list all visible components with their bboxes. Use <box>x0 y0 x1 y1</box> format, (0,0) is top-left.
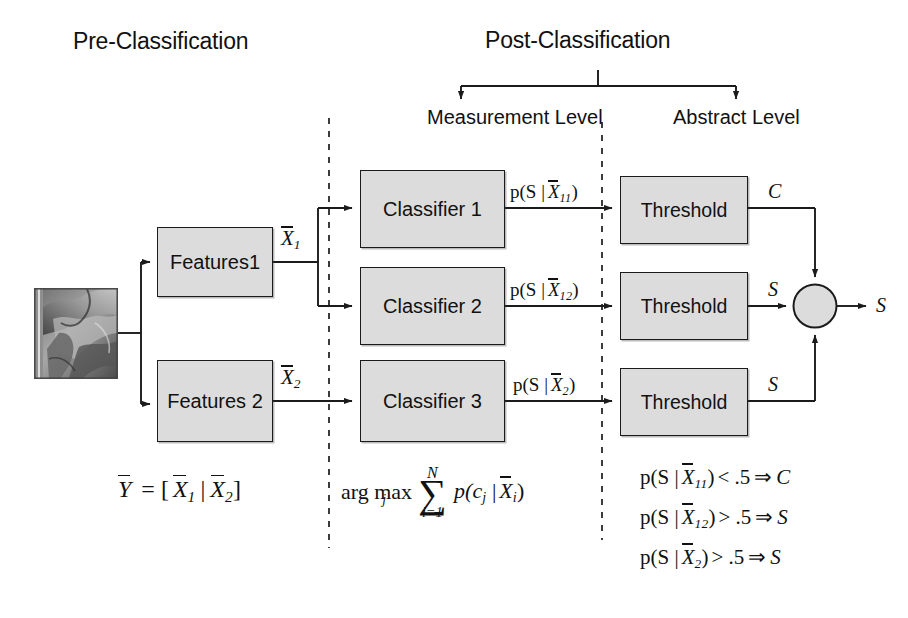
heading-pre-classification: Pre-Classification <box>73 28 248 55</box>
edge-label-decision-3: S <box>768 373 778 396</box>
formula-feature-concatenation: Y = [X1|X2] <box>118 477 241 504</box>
decision-rule-3: p(S |X2)> .5⇒S <box>640 545 781 572</box>
node-features-2[interactable]: Features 2 <box>157 360 273 442</box>
edge-label-posterior-2: p(S |X12) <box>510 280 579 302</box>
edge-label-decision-1: C <box>768 180 781 203</box>
edge-label-feature-vector-2: X2 <box>281 367 301 390</box>
node-threshold-1[interactable]: Threshold <box>620 176 748 244</box>
node-features-1-label: Features1 <box>170 251 260 274</box>
diagram-canvas: Pre-Classification Post-Classification M… <box>0 0 908 618</box>
edge-label-output: S <box>876 294 886 317</box>
node-features-2-label: Features 2 <box>167 390 263 413</box>
node-classifier-2-label: Classifier 2 <box>383 295 482 318</box>
node-classifier-1-label: Classifier 1 <box>383 198 482 221</box>
node-threshold-2[interactable]: Threshold <box>620 272 748 340</box>
input-image-thumbnail <box>34 288 118 379</box>
formula-argmax-sum: arg maxj ∑Ni=1 p(cj |Xi) <box>341 470 524 517</box>
node-threshold-3[interactable]: Threshold <box>620 368 748 436</box>
node-threshold-2-label: Threshold <box>641 295 728 318</box>
edge-label-posterior-1: p(S |X11) <box>510 182 578 204</box>
edge-label-feature-vector-1: X1 <box>281 228 301 251</box>
node-classifier-3[interactable]: Classifier 3 <box>360 360 505 442</box>
decision-rule-2: p(S |X12)> .5⇒S <box>640 505 788 532</box>
heading-abstract-level: Abstract Level <box>673 106 800 129</box>
edge-label-decision-2: S <box>768 278 778 301</box>
fusion-junction <box>794 285 837 328</box>
heading-post-classification: Post-Classification <box>485 27 670 54</box>
node-classifier-3-label: Classifier 3 <box>383 390 482 413</box>
heading-measurement-level: Measurement Level <box>427 106 603 129</box>
edge-label-posterior-3: p(S |X2) <box>513 375 575 397</box>
node-classifier-1[interactable]: Classifier 1 <box>360 170 505 248</box>
node-features-1[interactable]: Features1 <box>157 227 273 297</box>
decision-rule-1: p(S |X11)< .5⇒C <box>640 465 790 492</box>
node-classifier-2[interactable]: Classifier 2 <box>360 267 505 345</box>
node-threshold-3-label: Threshold <box>641 391 728 414</box>
node-threshold-1-label: Threshold <box>641 199 728 222</box>
